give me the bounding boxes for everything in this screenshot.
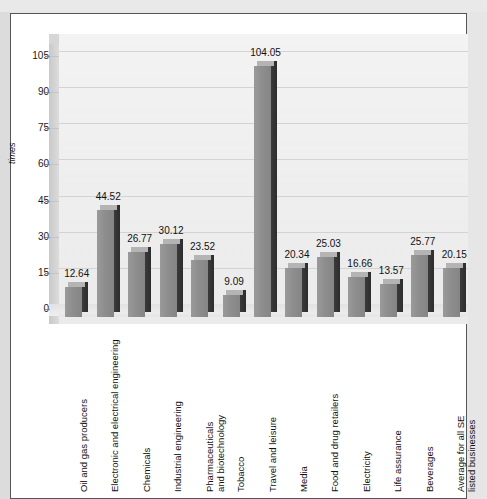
y-tick-label: 30 <box>15 231 49 242</box>
gridline-side <box>49 128 59 129</box>
y-tick-mark <box>45 201 50 202</box>
bar[interactable] <box>317 252 340 317</box>
bar-value-label: 104.05 <box>245 47 286 58</box>
bar-front-face <box>191 260 208 317</box>
plot-area: 0153045607590105 times 12.6444.5226.7730… <box>11 14 468 499</box>
y-tick-mark <box>45 56 50 57</box>
x-category-label-line: Electronic and electrical engineering <box>110 339 121 492</box>
bar[interactable] <box>380 279 403 317</box>
chart-screenshot: 0153045607590105 times 12.6444.5226.7730… <box>0 0 487 499</box>
bar-front-face <box>254 66 271 317</box>
gridline-side <box>49 164 59 165</box>
chart-panel: 0153045607590105 times 12.6444.5226.7730… <box>10 13 467 499</box>
y-tick-mark <box>45 128 50 129</box>
bar[interactable] <box>443 263 466 317</box>
bar[interactable] <box>223 290 246 317</box>
bar-front-face <box>443 268 460 317</box>
bar-value-label: 25.77 <box>402 236 443 247</box>
bar-front-face <box>317 257 334 317</box>
bar-front-face <box>411 255 428 317</box>
bar[interactable] <box>65 282 88 317</box>
bar-front-face <box>223 295 240 317</box>
x-category-label: Tobacco <box>236 457 247 492</box>
bar-value-label: 13.57 <box>371 265 412 276</box>
x-category-label-line: Travel and leisure <box>268 417 279 492</box>
x-category-label: Chemicals <box>142 448 153 492</box>
x-category-label-line: and biotechnology <box>215 415 226 492</box>
bar-value-label: 9.09 <box>214 276 255 287</box>
y-tick-mark <box>45 164 50 165</box>
bar[interactable] <box>285 263 308 317</box>
x-category-label: Electricity <box>362 451 373 492</box>
gridline-side <box>49 56 59 57</box>
bar-value-label: 20.15 <box>434 249 475 260</box>
bar-top-face <box>194 255 211 260</box>
x-category-label-line: Electricity <box>362 451 373 492</box>
bar-value-label: 23.52 <box>182 241 223 252</box>
bar-top-face <box>226 290 243 295</box>
bar-side-face <box>460 263 466 312</box>
y-tick-label: 105 <box>15 50 49 61</box>
bar[interactable] <box>128 247 151 317</box>
x-category-label: Life assurance <box>393 430 404 492</box>
bar[interactable] <box>97 205 120 317</box>
plot-left-wall <box>49 34 59 324</box>
y-tick-mark <box>45 237 50 238</box>
bar[interactable] <box>411 250 434 317</box>
gridline-side <box>49 201 59 202</box>
bar-top-face <box>446 263 463 268</box>
x-category-label: Food and drug retailers <box>330 394 341 492</box>
x-category-label-line: listed businesses <box>467 416 478 492</box>
bar-side-face <box>302 263 308 312</box>
plot-left-wall-top <box>49 34 59 44</box>
y-tick-label: 45 <box>15 195 49 206</box>
bar-side-face <box>365 272 371 312</box>
bar-side-face <box>271 61 277 312</box>
x-category-label: Media <box>299 466 310 492</box>
x-category-label: Pharmaceuticalsand biotechnology <box>205 415 226 492</box>
y-tick-label: 90 <box>15 86 49 97</box>
bar[interactable] <box>254 61 277 317</box>
x-category-label-line: Chemicals <box>142 448 153 492</box>
y-tick-label: 15 <box>15 267 49 278</box>
y-tick-label: 0 <box>15 303 49 314</box>
bar-top-face <box>320 252 337 257</box>
bar-value-label: 30.12 <box>151 225 192 236</box>
bar-value-label: 25.03 <box>308 238 349 249</box>
gridline-side <box>49 237 59 238</box>
bar-top-face <box>100 205 117 210</box>
x-category-label-line: Beverages <box>425 447 436 492</box>
x-category-label-line: Tobacco <box>236 457 247 492</box>
bar-side-face <box>145 247 151 312</box>
x-category-label: Industrial engineering <box>173 401 184 492</box>
bar-front-face <box>97 210 114 317</box>
bar-front-face <box>380 284 397 317</box>
x-category-label-line: Pharmaceuticals <box>205 415 216 492</box>
page-background-top-shade <box>0 0 487 12</box>
x-category-label: Travel and leisure <box>268 417 279 492</box>
bar-front-face <box>128 252 145 317</box>
bar[interactable] <box>348 272 371 317</box>
bar-top-face <box>68 282 85 287</box>
bar-series: 12.6444.5226.7730.1223.529.09104.0520.34… <box>59 34 468 317</box>
y-axis-title: times <box>7 142 17 164</box>
x-category-label-line: Media <box>299 466 310 492</box>
x-category-label: Average for all SElisted businesses <box>456 416 477 492</box>
bar-value-label: 12.64 <box>56 268 97 279</box>
bar-top-face <box>163 239 180 244</box>
x-category-label: Beverages <box>425 447 436 492</box>
bar-value-label: 44.52 <box>88 191 129 202</box>
bar[interactable] <box>191 255 214 317</box>
bar-top-face <box>257 61 274 66</box>
bar-top-face <box>131 247 148 252</box>
bar-front-face <box>65 287 82 317</box>
y-tick-mark <box>45 309 50 310</box>
bar-top-face <box>351 272 368 277</box>
bar[interactable] <box>160 239 183 317</box>
y-tick-label: 60 <box>15 158 49 169</box>
y-tick-mark <box>45 92 50 93</box>
x-category-label-line: Industrial engineering <box>173 401 184 492</box>
x-category-label-line: Food and drug retailers <box>330 394 341 492</box>
x-category-label: Electronic and electrical engineering <box>110 339 121 492</box>
y-tick-mark <box>45 273 50 274</box>
